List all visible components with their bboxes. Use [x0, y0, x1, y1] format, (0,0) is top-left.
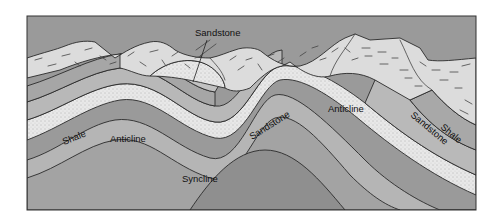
fold-cross-section-diagram: Sandstone Shale Anticline Syncline Sands… — [0, 0, 498, 221]
label-sandstone-top: Sandstone — [195, 27, 240, 38]
label-anticline-left: Anticline — [110, 133, 146, 144]
label-anticline-right: Anticline — [328, 103, 364, 114]
strata-group — [27, 16, 476, 210]
label-syncline: Syncline — [182, 173, 218, 184]
